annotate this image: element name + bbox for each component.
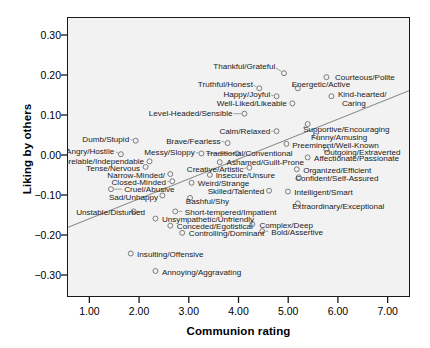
axis-tick-marks	[0, 0, 430, 348]
scatter-plot-figure: Thankful/GratefulCourteous/PoliteTruthfu…	[0, 0, 430, 348]
